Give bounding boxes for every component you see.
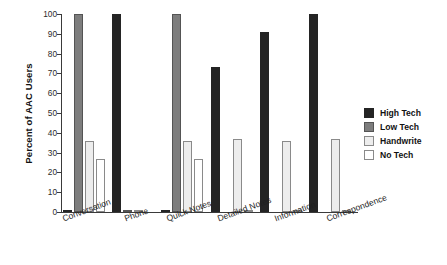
bar [260,32,269,212]
legend-label: No Tech [380,150,413,160]
bar [233,139,242,212]
y-tick-mark [57,133,61,134]
y-tick-label: 30 [48,148,57,158]
bar-group [210,14,259,212]
y-tick-mark [57,34,61,35]
y-tick-label: 70 [48,68,57,78]
y-tick-mark [57,172,61,173]
bar-group [62,14,111,212]
legend-label: Low Tech [380,122,419,132]
bar-group [309,14,358,212]
chart-legend: High TechLow TechHandwriteNo Tech [364,106,446,162]
y-tick-label: 50 [48,108,57,118]
y-tick-mark [57,192,61,193]
y-tick-label: 100 [43,9,57,19]
y-tick-label: 0 [52,207,57,217]
bar-group [111,14,160,212]
y-axis-title: Percent of AAC Users [23,34,34,194]
bar [309,14,318,212]
legend-item[interactable]: Low Tech [364,120,446,134]
x-axis-category-labels: ConversationPhoneQuick NotesDetailed Not… [61,214,361,264]
legend-item[interactable]: High Tech [364,106,446,120]
bar [211,67,220,212]
x-axis-line [58,212,358,213]
y-tick-label: 60 [48,88,57,98]
bar [331,139,340,212]
bar-chart: Percent of AAC Users 0102030405060708090… [0,0,447,265]
bar-group [161,14,210,212]
y-tick-mark [57,113,61,114]
y-tick-mark [57,54,61,55]
y-tick-mark [57,153,61,154]
y-tick-label: 90 [48,29,57,39]
legend-swatch-icon [364,150,374,160]
bar [183,141,192,212]
legend-swatch-icon [364,108,374,118]
bar [172,14,181,212]
bar [74,14,83,212]
y-tick-label: 40 [48,128,57,138]
y-tick-mark [57,14,61,15]
legend-swatch-icon [364,136,374,146]
bar-groups [62,14,358,212]
y-tick-label: 20 [48,167,57,177]
legend-item[interactable]: Handwrite [364,134,446,148]
y-tick-label: 10 [48,187,57,197]
legend-label: Handwrite [380,136,422,146]
bar [112,14,121,212]
legend-label: High Tech [380,108,421,118]
legend-swatch-icon [364,122,374,132]
y-tick-mark [57,73,61,74]
y-tick-mark [57,212,61,213]
y-tick-label: 80 [48,49,57,59]
legend-item[interactable]: No Tech [364,148,446,162]
bar-group [259,14,308,212]
bar [282,141,291,212]
y-tick-mark [57,93,61,94]
plot-area: 0102030405060708090100 [61,14,358,212]
